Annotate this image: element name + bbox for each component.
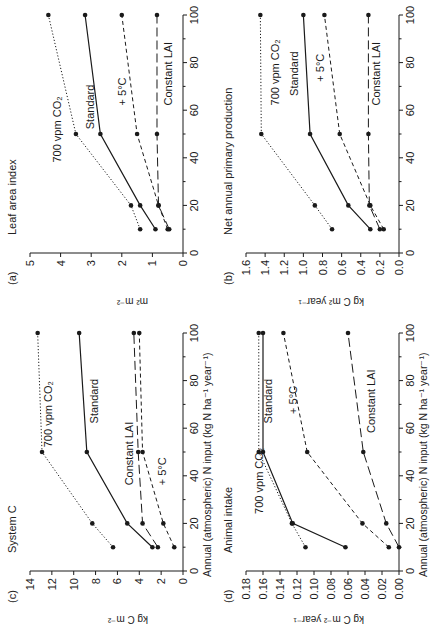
svg-text:80: 80 <box>188 56 200 68</box>
svg-text:100: 100 <box>188 6 200 24</box>
panel-label: (b) <box>222 272 234 285</box>
svg-text:0.16: 0.16 <box>257 578 269 599</box>
chart-leaf-area-index: 020406080100012345700 vpm CO₂Standard+ 5… <box>0 0 216 315</box>
panel-system-carbon: 02040608010002468101214700 vpm CO₂Standa… <box>0 317 216 633</box>
y-axis-label: kg C m⁻² <box>108 614 148 625</box>
svg-text:14: 14 <box>24 578 36 590</box>
svg-text:+ 5°C: + 5°C <box>287 386 299 414</box>
svg-text:0.0: 0.0 <box>393 260 405 275</box>
svg-text:0.8: 0.8 <box>317 260 329 275</box>
svg-text:1.4: 1.4 <box>259 260 271 275</box>
svg-text:0.04: 0.04 <box>359 578 371 599</box>
svg-text:5: 5 <box>24 260 36 266</box>
svg-text:Standard: Standard <box>84 85 96 130</box>
svg-text:80: 80 <box>188 374 200 386</box>
chart-net-primary-production: 0204060801000.00.20.40.60.81.01.21.41.67… <box>216 0 432 315</box>
svg-text:2: 2 <box>116 260 128 266</box>
svg-text:100: 100 <box>404 324 416 342</box>
svg-text:2: 2 <box>155 578 167 584</box>
svg-text:Constant LAI: Constant LAI <box>370 42 382 106</box>
svg-text:0: 0 <box>404 568 416 574</box>
svg-text:0.4: 0.4 <box>355 260 367 275</box>
panel-title: Leaf area index <box>6 159 18 235</box>
svg-text:40: 40 <box>404 152 416 164</box>
panel-title: System C <box>6 505 18 553</box>
svg-text:80: 80 <box>404 374 416 386</box>
svg-text:1.2: 1.2 <box>278 260 290 275</box>
panel-leaf-area-index: 020406080100012345700 vpm CO₂Standard+ 5… <box>0 0 216 315</box>
svg-text:Constant LAI: Constant LAI <box>123 422 135 486</box>
panel-animal-intake: 0204060801000.000.020.040.060.080.100.12… <box>216 317 432 633</box>
chart-animal-intake: 0204060801000.000.020.040.060.080.100.12… <box>216 317 432 633</box>
svg-text:Standard: Standard <box>88 379 100 424</box>
svg-text:20: 20 <box>404 517 416 529</box>
svg-text:0.14: 0.14 <box>274 578 286 599</box>
svg-text:+ 5°C: + 5°C <box>116 77 128 105</box>
svg-text:100: 100 <box>404 6 416 24</box>
panel-label: (a) <box>6 272 18 285</box>
svg-text:20: 20 <box>188 199 200 211</box>
y-axis-label: m² m⁻² <box>117 296 148 307</box>
svg-text:0.10: 0.10 <box>308 578 320 599</box>
svg-text:700 vpm CO₂: 700 vpm CO₂ <box>42 381 54 447</box>
svg-text:8: 8 <box>90 578 102 584</box>
panel-title: Net annual primary production <box>222 88 234 235</box>
svg-text:80: 80 <box>404 56 416 68</box>
svg-text:0.02: 0.02 <box>376 578 388 599</box>
svg-text:0.00: 0.00 <box>393 578 405 599</box>
panel-net-primary-production: 0204060801000.00.20.40.60.81.01.21.41.67… <box>216 0 432 315</box>
svg-text:40: 40 <box>188 152 200 164</box>
svg-text:0.08: 0.08 <box>325 578 337 599</box>
y-axis-label: kg C m² year⁻¹ <box>298 296 364 307</box>
svg-text:60: 60 <box>188 104 200 116</box>
svg-text:0.2: 0.2 <box>374 260 386 275</box>
svg-text:20: 20 <box>404 199 416 211</box>
svg-text:40: 40 <box>188 470 200 482</box>
svg-text:700 vpm CO₂: 700 vpm CO₂ <box>253 448 265 514</box>
chart-system-carbon: 02040608010002468101214700 vpm CO₂Standa… <box>0 317 216 633</box>
panel-label: (d) <box>222 590 234 603</box>
svg-text:700 vpm CO₂: 700 vpm CO₂ <box>269 39 281 105</box>
svg-text:0.12: 0.12 <box>291 578 303 599</box>
svg-text:Standard: Standard <box>288 51 300 96</box>
svg-text:0: 0 <box>177 578 189 584</box>
svg-text:0: 0 <box>177 260 189 266</box>
svg-text:40: 40 <box>404 470 416 482</box>
svg-text:700 vpm CO₂: 700 vpm CO₂ <box>51 97 63 163</box>
svg-text:6: 6 <box>111 578 123 584</box>
svg-text:0: 0 <box>188 250 200 256</box>
svg-text:10: 10 <box>68 578 80 590</box>
panel-title: Animal intake <box>222 487 234 553</box>
svg-text:Constant LAI: Constant LAI <box>365 369 377 433</box>
svg-text:12: 12 <box>46 578 58 590</box>
svg-text:1.0: 1.0 <box>297 260 309 275</box>
svg-text:0.06: 0.06 <box>342 578 354 599</box>
svg-text:60: 60 <box>404 104 416 116</box>
svg-text:4: 4 <box>55 260 67 266</box>
x-axis-label: Annual (atmospheric) N input (kg N ha⁻¹ … <box>201 353 213 577</box>
svg-text:0.18: 0.18 <box>240 578 252 599</box>
svg-text:+ 5°C: + 5°C <box>156 457 168 485</box>
figure-page: 020406080100012345700 vpm CO₂Standard+ 5… <box>0 0 433 633</box>
svg-text:Constant LAI: Constant LAI <box>162 42 174 106</box>
x-axis-label: Annual (atmospheric) N input (kg N ha⁻¹ … <box>417 353 429 577</box>
svg-text:+ 5°C: + 5°C <box>314 54 326 82</box>
svg-text:0: 0 <box>404 250 416 256</box>
svg-text:1.6: 1.6 <box>240 260 252 275</box>
svg-text:100: 100 <box>188 324 200 342</box>
svg-text:1: 1 <box>146 260 158 266</box>
svg-text:60: 60 <box>404 422 416 434</box>
svg-text:4: 4 <box>133 578 145 584</box>
y-axis-label: kg C m⁻² year⁻¹ <box>293 614 364 625</box>
svg-text:3: 3 <box>85 260 97 266</box>
svg-text:0: 0 <box>188 568 200 574</box>
svg-text:60: 60 <box>188 422 200 434</box>
svg-text:Standard: Standard <box>262 379 274 424</box>
svg-text:0.6: 0.6 <box>336 260 348 275</box>
panel-label: (c) <box>6 590 18 603</box>
svg-text:20: 20 <box>188 517 200 529</box>
